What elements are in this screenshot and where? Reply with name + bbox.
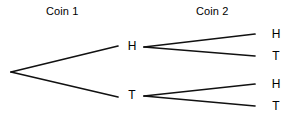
stage-label-coin-1: Coin 1	[46, 5, 78, 18]
node-coin2-tails-after-heads: T	[269, 50, 283, 62]
branch-root-to-heads	[11, 46, 118, 72]
node-coin2-tails-after-tails: T	[269, 100, 283, 112]
stage-label-coin-2: Coin 2	[196, 5, 228, 18]
branch-tails-to-heads	[144, 84, 255, 96]
node-coin2-heads-after-heads: H	[269, 28, 283, 40]
stage-2-heads-branch-group	[144, 34, 255, 56]
coin-flip-tree-diagram: Coin 1 Coin 2 H T H T H T	[0, 0, 301, 119]
stage-1-branch-group	[11, 46, 118, 97]
branch-heads-to-tails	[144, 47, 255, 56]
node-coin1-heads: H	[125, 40, 139, 52]
node-coin2-heads-after-tails: H	[269, 78, 283, 90]
branch-tails-to-tails	[144, 96, 255, 106]
stage-2-tails-branch-group	[144, 84, 255, 106]
node-coin1-tails: T	[125, 89, 139, 101]
branch-root-to-tails	[11, 72, 118, 97]
branch-heads-to-heads	[144, 34, 255, 47]
